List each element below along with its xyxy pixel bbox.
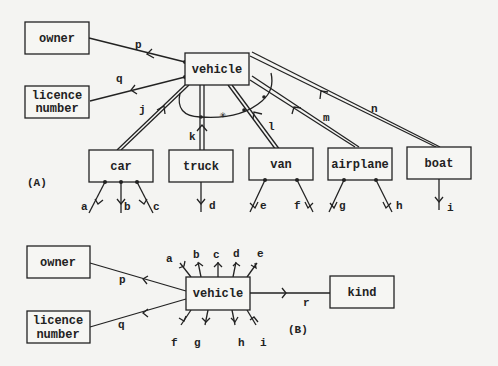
label-d-b: d: [233, 248, 240, 260]
attribute-stubs-top: [179, 261, 257, 277]
label-f-b: f: [171, 337, 178, 349]
entity-truck[interactable]: truck: [169, 150, 233, 182]
label-n: n: [371, 103, 378, 115]
diagram-b: p q r a b c d e f g h i (B) owner licenc…: [27, 246, 394, 349]
svg-text:vehicle: vehicle: [193, 287, 243, 301]
svg-text:truck: truck: [183, 160, 219, 174]
svg-text:number: number: [35, 102, 78, 116]
attribute-c-line: [135, 180, 153, 213]
label-l: l: [268, 121, 275, 133]
svg-text:car: car: [110, 160, 132, 174]
label-m: m: [323, 112, 330, 124]
panel-label-b: (B): [288, 324, 308, 336]
subtype-n-line: [250, 52, 440, 147]
attribute-d-line: [197, 182, 205, 212]
entity-airplane[interactable]: airplane: [328, 148, 392, 180]
entity-kind[interactable]: kind: [330, 276, 394, 308]
attribute-h-line: [374, 178, 392, 212]
attribute-i-line: [435, 179, 443, 210]
label-p-b: p: [119, 274, 126, 286]
relationship-q-line-b: [90, 299, 186, 327]
label-g-b: g: [194, 337, 201, 349]
svg-text:owner: owner: [39, 32, 75, 46]
svg-text:vehicle: vehicle: [192, 63, 242, 77]
entity-licence-number-a[interactable]: licence number: [25, 86, 89, 118]
label-c-b: c: [213, 249, 220, 261]
entity-owner-a[interactable]: owner: [25, 22, 89, 54]
exclusion-marker-icon: ✳: [220, 109, 227, 121]
label-j: j: [139, 104, 146, 116]
label-i-b: i: [260, 337, 267, 349]
entity-boat[interactable]: boat: [407, 147, 471, 179]
label-b-b: b: [193, 249, 200, 261]
relationship-p-line-b: [90, 263, 186, 291]
label-h: h: [396, 200, 403, 212]
entity-vehicle-b[interactable]: vehicle: [186, 277, 250, 310]
arc-dot: [199, 115, 203, 119]
svg-text:owner: owner: [40, 256, 76, 270]
label-r: r: [303, 297, 310, 309]
crowsfoot-q-icon-b: [143, 309, 148, 317]
svg-text:kind: kind: [348, 286, 377, 300]
label-f: f: [294, 200, 301, 212]
label-p: p: [135, 39, 142, 51]
entity-owner-b[interactable]: owner: [27, 246, 90, 278]
attribute-a-line: [89, 180, 107, 213]
diagram-a: ✳ p q j k l m n (A) owner licence number…: [25, 22, 471, 214]
relationship-q-line: [90, 77, 185, 101]
panel-label-a: (A): [27, 177, 47, 189]
svg-text:van: van: [270, 158, 292, 172]
svg-text:boat: boat: [425, 157, 454, 171]
label-e-b: e: [257, 248, 264, 260]
diagram-canvas: ✳ p q j k l m n (A) owner licence number…: [0, 0, 498, 366]
svg-text:licence: licence: [32, 89, 82, 103]
label-a: a: [81, 201, 88, 213]
label-i: i: [447, 202, 454, 214]
svg-text:licence: licence: [33, 314, 83, 328]
arc-dot: [262, 95, 266, 99]
svg-text:airplane: airplane: [331, 158, 389, 172]
subtype-j-line: [117, 85, 189, 150]
entity-licence-number-b[interactable]: licence number: [27, 311, 90, 343]
label-b: b: [124, 201, 131, 213]
label-k: k: [189, 131, 196, 143]
entity-van[interactable]: van: [249, 148, 313, 180]
er-diagram: ✳ p q j k l m n (A) owner licence number…: [0, 0, 498, 366]
entity-vehicle-a[interactable]: vehicle: [185, 53, 249, 85]
label-g: g: [339, 200, 346, 212]
entity-car[interactable]: car: [89, 150, 153, 182]
attribute-stubs-bottom: [179, 310, 258, 325]
label-q-b: q: [118, 319, 125, 331]
label-q: q: [116, 73, 123, 85]
label-a-b: a: [166, 253, 173, 265]
label-h-b: h: [238, 337, 245, 349]
label-e: e: [260, 200, 267, 212]
arc-dot: [242, 108, 246, 112]
svg-text:number: number: [36, 328, 79, 342]
label-c: c: [153, 201, 160, 213]
label-d: d: [209, 200, 216, 212]
